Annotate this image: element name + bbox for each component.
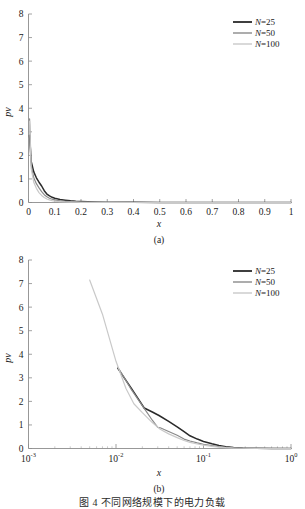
y-ticklabel: 5 [19,326,24,336]
y-ticklabel: 7 [19,33,24,43]
x-ticklabel: 1 [289,207,294,217]
chart-a-curves [30,119,291,203]
curve-n-25 [30,135,291,202]
y-ticklabel: 0 [19,444,24,454]
x-ticklabel: 0.8 [233,207,245,217]
legend-label-n-50: N=50 [254,277,276,287]
y-ticklabel: 3 [19,373,24,383]
chart-a-x-axis-title: x [156,218,162,229]
chart-b-subcaption: (b) [153,484,164,495]
chart-a-legend: N=25N=50N=100 [233,17,280,49]
x-ticklabel: 0.3 [101,207,113,217]
y-ticklabel: 3 [19,127,24,137]
x-ticklabel: 0.7 [206,207,218,217]
y-ticklabel: 2 [19,397,24,407]
x-ticklabel: 0.2 [75,207,87,217]
legend-label-n-100: N=100 [254,288,280,298]
y-ticklabel: 1 [19,174,24,184]
y-ticklabel: 8 [19,255,24,265]
figure-caption: 图 4 不同网络规模下的电力负载 [0,496,305,509]
chart-a-y-axis-title: pv [2,107,13,118]
chart-a-x-ticklabels: 00.10.20.30.40.50.60.70.80.91 [26,207,294,217]
y-ticklabel: 6 [19,57,24,67]
chart-b-curves [90,280,291,448]
y-ticklabel: 0 [19,198,24,208]
curve-n-100 [30,121,291,202]
x-ticklabel: 0.5 [154,207,166,217]
x-ticklabel: 0.4 [128,207,140,217]
x-ticklabel: 10-2 [109,451,124,463]
legend-label-n-50: N=50 [254,28,276,38]
x-ticklabel: 10-3 [21,451,36,463]
chart-b-y-ticklabels: 012345678 [19,255,24,454]
y-ticklabel: 8 [19,9,24,19]
y-ticklabel: 6 [19,303,24,313]
chart-b-x-axis-title: x [156,467,162,478]
legend-label-n-25: N=25 [254,266,276,276]
legend-label-n-100: N=100 [254,39,280,49]
chart-a-subcaption: (a) [154,235,165,246]
curve-n-50 [30,119,291,203]
chart-b-x-ticklabels: 10-310-210-1100 [21,451,297,463]
y-ticklabel: 1 [19,420,24,430]
y-ticklabel: 2 [19,151,24,161]
chart-panel-a: 012345678 00.10.20.30.40.50.60.70.80.91 … [0,0,305,252]
chart-a-tickmarks [29,14,292,203]
curve-n-50 [118,367,291,448]
y-ticklabel: 4 [19,104,24,114]
x-ticklabel: 0.9 [259,207,271,217]
figure-container: 012345678 00.10.20.30.40.50.60.70.80.91 … [0,0,305,509]
chart-b-legend: N=25N=50N=100 [233,266,280,298]
curve-n-100 [90,280,291,448]
chart-a-y-ticklabels: 012345678 [19,9,24,208]
chart-b-tickmarks [29,260,292,449]
x-ticklabel: 0 [26,207,31,217]
legend-label-n-25: N=25 [254,17,276,27]
chart-a-svg: 012345678 00.10.20.30.40.50.60.70.80.91 … [0,0,305,252]
y-ticklabel: 7 [19,279,24,289]
x-ticklabel: 10-1 [196,451,211,463]
x-ticklabel: 0.1 [49,207,61,217]
chart-b-svg: 012345678 10-310-210-1100 pv x (b) N=25N… [0,252,305,509]
x-ticklabel: 0.6 [180,207,192,217]
y-ticklabel: 4 [19,350,24,360]
chart-panel-b: 012345678 10-310-210-1100 pv x (b) N=25N… [0,252,305,509]
x-ticklabel: 100 [285,451,298,463]
y-ticklabel: 5 [19,80,24,90]
chart-b-y-axis-title: pv [2,353,13,364]
